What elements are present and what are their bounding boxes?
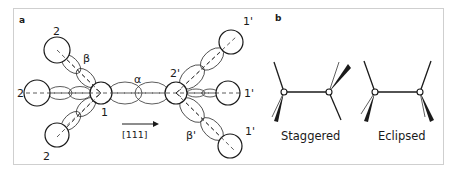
label-beta-prime: β' xyxy=(186,129,196,142)
panel-a-label: a xyxy=(19,15,25,25)
label-1prime-upper: 1' xyxy=(243,15,253,28)
staggered-atom-left xyxy=(281,89,287,95)
atom-1prime-upper xyxy=(219,30,243,54)
eclipsed-atom-left xyxy=(372,89,378,95)
panel-b-label: b xyxy=(275,13,282,23)
direction-arrow-icon xyxy=(122,121,159,127)
staggered-conformation: Staggered xyxy=(272,62,351,143)
atom-2-left-lower xyxy=(45,123,69,147)
label-1prime-middle: 1' xyxy=(244,87,254,100)
label-2-lower: 2 xyxy=(43,150,50,163)
eclipsed-conformation: Eclipsed xyxy=(361,61,434,143)
caption-staggered: Staggered xyxy=(281,129,340,143)
panel-a: a xyxy=(17,15,255,163)
label-1prime-lower: 1' xyxy=(245,125,255,138)
label-2prime: 2' xyxy=(170,67,180,80)
staggered-atom-right xyxy=(326,89,332,95)
panel-b: b Staggered xyxy=(272,13,434,143)
figure: a xyxy=(0,0,452,174)
label-2-upper: 2 xyxy=(53,25,60,38)
label-2-middle: 2 xyxy=(17,87,24,100)
caption-eclipsed: Eclipsed xyxy=(378,129,426,143)
label-alpha: α xyxy=(134,73,141,86)
label-direction-111: [111] xyxy=(122,129,148,140)
label-beta: β xyxy=(83,52,90,65)
eclipsed-atom-right xyxy=(417,89,423,95)
label-1: 1 xyxy=(101,106,108,119)
